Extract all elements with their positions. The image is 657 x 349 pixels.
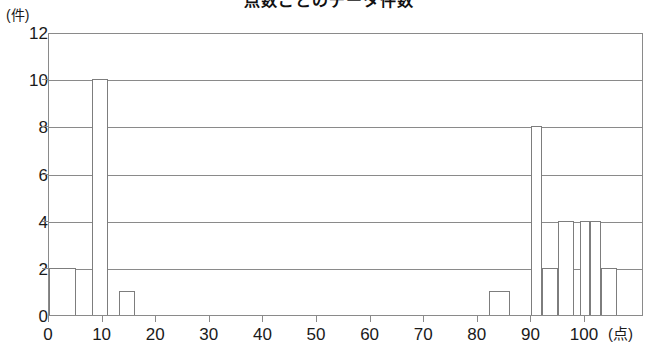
y-tick-label-2: 2 [8, 260, 48, 277]
y-tick-label-10: 10 [8, 72, 48, 89]
x-tick-mark-10 [102, 316, 103, 322]
x-tick-label-100: 100 [570, 326, 598, 343]
histogram-bar [119, 291, 135, 315]
x-tick-label-10: 10 [92, 326, 111, 343]
y-tick-label-8: 8 [8, 119, 48, 136]
histogram-bar [542, 268, 558, 315]
histogram-bar [601, 268, 617, 315]
histogram-bar [558, 221, 574, 315]
gridline-y-6 [49, 175, 642, 176]
x-tick-mark-90 [530, 316, 531, 322]
histogram-bar [489, 291, 510, 315]
y-tick-label-12: 12 [8, 25, 48, 42]
y-axis: 024681012 [0, 0, 48, 349]
x-tick-mark-100 [584, 316, 585, 322]
histogram-bar [590, 221, 601, 315]
gridline-y-10 [49, 80, 642, 81]
x-tick-mark-20 [155, 316, 156, 322]
x-tick-label-90: 90 [521, 326, 540, 343]
y-tick-label-6: 6 [8, 166, 48, 183]
chart-title: 点数ごとのデータ件数 [0, 0, 657, 11]
plot-area [48, 33, 643, 316]
histogram-bar [580, 221, 591, 315]
x-tick-label-70: 70 [414, 326, 433, 343]
x-axis: 0102030405060708090100 [0, 316, 657, 349]
histogram-bar [92, 79, 108, 315]
x-tick-mark-0 [48, 316, 49, 322]
x-tick-mark-60 [370, 316, 371, 322]
x-tick-label-40: 40 [253, 326, 272, 343]
x-tick-label-30: 30 [199, 326, 218, 343]
y-tick-label-4: 4 [8, 213, 48, 230]
x-tick-label-60: 60 [360, 326, 379, 343]
x-tick-mark-70 [423, 316, 424, 322]
x-axis-unit-label: (点) [608, 326, 633, 341]
histogram-bar [49, 268, 76, 315]
x-tick-mark-80 [477, 316, 478, 322]
gridline-y-8 [49, 127, 642, 128]
x-tick-label-80: 80 [467, 326, 486, 343]
x-tick-mark-40 [262, 316, 263, 322]
x-tick-label-20: 20 [146, 326, 165, 343]
gridline-y-4 [49, 222, 642, 223]
x-tick-mark-50 [316, 316, 317, 322]
histogram-bar [531, 126, 542, 315]
x-tick-label-0: 0 [43, 326, 52, 343]
x-tick-mark-30 [209, 316, 210, 322]
x-tick-label-50: 50 [307, 326, 326, 343]
